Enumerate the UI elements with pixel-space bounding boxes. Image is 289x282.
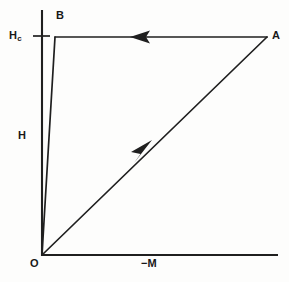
x-axis-label: −M (141, 258, 157, 269)
path-segment-b-to-o (42, 37, 55, 255)
path-segment-o-to-a (42, 37, 267, 255)
point-b-label: B (56, 10, 64, 21)
plot-canvas (0, 0, 289, 282)
point-a-label: A (272, 30, 280, 41)
y-axis-label: H (18, 130, 26, 141)
origin-label: O (30, 258, 39, 269)
magnetization-hysteresis-figure: Hc B A O H −M (0, 0, 289, 282)
critical-field-subscript: c (17, 34, 21, 43)
critical-field-label: Hc (9, 30, 22, 44)
